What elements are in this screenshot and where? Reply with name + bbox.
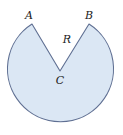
circle-sector-shape (8, 24, 114, 122)
diagram-canvas: A B C R (0, 0, 123, 135)
label-point-a: A (24, 9, 33, 22)
label-center-c: C (56, 74, 65, 87)
label-radius-r: R (62, 33, 71, 46)
label-point-b: B (84, 9, 93, 22)
